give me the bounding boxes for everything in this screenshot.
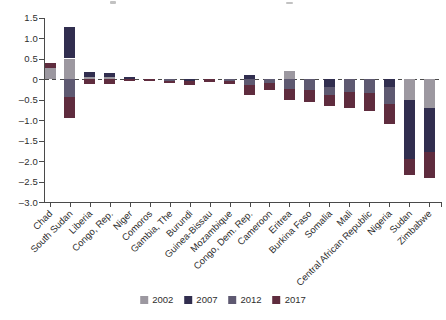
legend-label: 2012 bbox=[241, 294, 262, 305]
x-tick bbox=[369, 203, 370, 207]
y-tick-label: –2.0 bbox=[0, 156, 38, 167]
bar-segment bbox=[404, 100, 415, 159]
legend: 2002200720122017 bbox=[140, 294, 306, 305]
y-tick-label: 0.5 bbox=[0, 53, 38, 64]
legend-swatch-2007 bbox=[184, 296, 192, 304]
bar-segment bbox=[104, 79, 115, 84]
y-tick-label: –2.5 bbox=[0, 176, 38, 187]
x-tick bbox=[50, 203, 51, 207]
bar-segment bbox=[384, 79, 395, 87]
bar-segment bbox=[324, 95, 335, 105]
legend-item-2017: 2017 bbox=[273, 294, 306, 305]
x-axis-line bbox=[44, 202, 442, 203]
legend-item-2012: 2012 bbox=[229, 294, 262, 305]
x-tick bbox=[441, 203, 442, 207]
bar-segment bbox=[364, 79, 375, 93]
x-tick bbox=[289, 203, 290, 207]
bar-segment bbox=[144, 79, 155, 81]
bar-segment bbox=[244, 85, 255, 94]
x-tick bbox=[349, 203, 350, 207]
x-tick bbox=[329, 203, 330, 207]
cropped-title-fragment bbox=[286, 2, 293, 4]
x-tick bbox=[389, 203, 390, 207]
x-tick bbox=[409, 203, 410, 207]
bar-segment bbox=[424, 79, 435, 108]
cropped-title-fragment bbox=[110, 1, 116, 4]
bar-segment bbox=[384, 87, 395, 103]
bar-segment bbox=[224, 81, 235, 84]
x-tick bbox=[130, 203, 131, 207]
legend-item-2002: 2002 bbox=[140, 294, 173, 305]
bar-segment bbox=[344, 79, 355, 92]
x-tick bbox=[230, 203, 231, 207]
x-tick bbox=[269, 203, 270, 207]
y-tick-label: –0.5 bbox=[0, 94, 38, 105]
y-tick bbox=[39, 18, 44, 19]
bar-segment bbox=[364, 93, 375, 110]
bar-segment bbox=[344, 92, 355, 108]
bar-segment bbox=[284, 89, 295, 99]
bar-segment bbox=[64, 27, 75, 59]
y-tick bbox=[39, 100, 44, 101]
y-tick bbox=[39, 202, 44, 203]
legend-swatch-2012 bbox=[229, 296, 237, 304]
x-tick bbox=[210, 203, 211, 207]
bar-segment bbox=[264, 83, 275, 90]
bar-segment bbox=[84, 72, 95, 77]
y-tick bbox=[39, 59, 44, 60]
y-tick-label: –3.0 bbox=[0, 197, 38, 208]
y-tick bbox=[39, 79, 44, 80]
bar-segment bbox=[45, 63, 56, 69]
bar-segment bbox=[304, 79, 315, 90]
y-tick bbox=[39, 120, 44, 121]
legend-swatch-2017 bbox=[273, 296, 281, 304]
bar-segment bbox=[424, 108, 435, 152]
y-tick-label: –1.0 bbox=[0, 115, 38, 126]
y-tick-label: 1.5 bbox=[0, 12, 38, 23]
legend-label: 2017 bbox=[285, 294, 306, 305]
bar-segment bbox=[124, 79, 135, 81]
bar-segment bbox=[424, 152, 435, 178]
y-tick bbox=[39, 182, 44, 183]
bar-segment bbox=[404, 159, 415, 175]
y-tick bbox=[39, 141, 44, 142]
bar-segment bbox=[64, 97, 75, 118]
legend-label: 2002 bbox=[152, 294, 173, 305]
x-tick bbox=[250, 203, 251, 207]
legend-label: 2007 bbox=[196, 294, 217, 305]
bar-segment bbox=[284, 79, 295, 89]
y-axis-line bbox=[44, 18, 45, 203]
y-tick bbox=[39, 38, 44, 39]
bar-segment bbox=[164, 81, 175, 83]
bar-segment bbox=[324, 87, 335, 95]
bar-segment bbox=[324, 79, 335, 87]
bar-segment bbox=[404, 79, 415, 100]
bar-segment bbox=[204, 79, 215, 82]
x-tick bbox=[90, 203, 91, 207]
x-tick bbox=[150, 203, 151, 207]
bar-segment bbox=[45, 68, 56, 79]
y-tick-label: 1.0 bbox=[0, 33, 38, 44]
y-tick bbox=[39, 161, 44, 162]
x-tick bbox=[190, 203, 191, 207]
bar-segment bbox=[104, 73, 115, 77]
bar-segment bbox=[184, 81, 195, 85]
x-tick bbox=[429, 203, 430, 207]
bar-segment bbox=[284, 71, 295, 79]
x-tick bbox=[309, 203, 310, 207]
x-tick bbox=[170, 203, 171, 207]
x-tick bbox=[70, 203, 71, 207]
bar-segment bbox=[384, 104, 395, 125]
bar-segment bbox=[304, 90, 315, 101]
bar-segment bbox=[84, 79, 95, 84]
x-tick bbox=[110, 203, 111, 207]
legend-item-2007: 2007 bbox=[184, 294, 217, 305]
bar-segment bbox=[64, 79, 75, 97]
y-tick-label: –1.5 bbox=[0, 135, 38, 146]
legend-swatch-2002 bbox=[140, 296, 148, 304]
bar-segment bbox=[64, 59, 75, 80]
chart-figure: 1.51.00.50–0.5–1.0–1.5–2.0–2.5–3.0ChadSo… bbox=[0, 0, 446, 320]
y-tick-label: 0 bbox=[0, 74, 38, 85]
